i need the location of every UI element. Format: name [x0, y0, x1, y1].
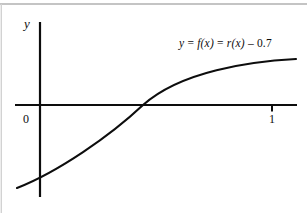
curve-equation-label: y = f(x) = r(x) – 0.7: [179, 38, 272, 50]
equation-eq-2: =: [214, 37, 227, 49]
equation-constant: 0.7: [257, 37, 272, 49]
origin-label: 0: [23, 113, 29, 125]
figure-canvas: y 0 1 y = f(x) = r(x) – 0.7: [0, 0, 307, 213]
x-tick-label-one: 1: [269, 113, 275, 125]
equation-eq-1: =: [184, 37, 197, 49]
equation-minus: –: [245, 37, 257, 49]
equation-r-of-x: r(x): [227, 37, 245, 49]
graph-plot-area: [0, 0, 307, 213]
y-axis-label: y: [24, 17, 30, 30]
equation-f-of-x: f(x): [197, 37, 214, 49]
function-curve: [17, 59, 296, 188]
